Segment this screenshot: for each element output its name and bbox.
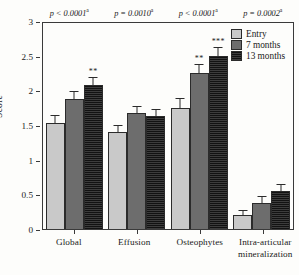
bar-group	[106, 23, 169, 229]
error-bar-cap	[89, 77, 98, 78]
significance-marker: **	[195, 56, 204, 62]
x-axis-ticks	[42, 230, 294, 235]
bar-7-months-osteophytes[interactable]	[190, 73, 209, 229]
bar-slot: **	[190, 23, 209, 229]
error-bar-cap	[132, 106, 141, 107]
bar-entry-effusion[interactable]	[108, 132, 127, 229]
bar-slot	[108, 23, 127, 229]
error-bar	[117, 126, 118, 132]
error-bar	[280, 185, 281, 191]
x-axis-label-osteophytes: Osteophytes	[167, 237, 233, 273]
error-bar	[242, 211, 243, 215]
significance-marker: ***	[212, 39, 225, 45]
legend-item-7-months: 7 months	[231, 40, 285, 50]
legend-label-7-months: 7 months	[246, 40, 280, 50]
y-axis-tick-1p5: 1.5	[22, 122, 33, 131]
p-value-osteophytes: p < 0.0001a	[166, 4, 231, 18]
legend-swatch-7-months-icon	[231, 40, 242, 50]
bar-7-months-intra-articular[interactable]	[252, 203, 271, 229]
error-bar-cap	[238, 210, 247, 211]
error-bar-cap	[214, 47, 223, 48]
error-bar	[55, 116, 56, 123]
legend-swatch-entry-icon	[231, 29, 242, 39]
x-axis-tickmark	[137, 230, 138, 234]
bar-13-months-intra-articular[interactable]	[271, 191, 290, 229]
x-axis-label-effusion: Effusion	[102, 237, 168, 273]
error-bar	[74, 92, 75, 99]
legend-item-entry: Entry	[231, 29, 285, 39]
bar-13-months-global[interactable]	[84, 85, 103, 229]
y-axis-tick-2p5: 2.5	[22, 52, 33, 61]
bar-slot: ***	[209, 23, 228, 229]
p-value-effusion: p = 0.0010a	[102, 4, 167, 18]
bar-entry-global[interactable]	[46, 123, 65, 229]
bar-slot	[46, 23, 65, 229]
p-value-intraarticular-text: p = 0.0002	[243, 9, 280, 18]
bar-13-months-effusion[interactable]	[146, 116, 165, 229]
error-bar-cap	[276, 184, 285, 185]
bar-chart: p < 0.0001a p = 0.0010a p < 0.0001a p = …	[0, 0, 298, 275]
p-value-osteophytes-text: p < 0.0001	[179, 9, 216, 18]
error-bar	[155, 110, 156, 116]
error-bar	[93, 78, 94, 86]
p-value-intraarticular-superscript: a	[280, 7, 282, 13]
bar-slot	[146, 23, 165, 229]
chart-legend: Entry 7 months 13 months	[229, 28, 287, 62]
legend-swatch-13-months-icon	[231, 51, 242, 61]
y-axis-tickmark	[36, 161, 40, 162]
bar-entry-osteophytes[interactable]	[171, 108, 190, 229]
bar-7-months-effusion[interactable]	[127, 113, 146, 229]
error-bar	[261, 197, 262, 203]
y-axis-tick-labels: 00.511.522.53	[0, 22, 40, 230]
bar-group: *****	[168, 23, 231, 229]
bar-slot	[127, 23, 146, 229]
bar-7-months-global[interactable]	[65, 99, 84, 229]
x-axis-label-global: Global	[36, 237, 102, 273]
error-bar-cap	[257, 196, 266, 197]
bar-group: **	[43, 23, 106, 229]
p-value-effusion-superscript: a	[151, 7, 153, 13]
y-axis-tickmark	[36, 230, 40, 231]
legend-item-13-months: 13 months	[231, 51, 285, 61]
bar-slot	[65, 23, 84, 229]
p-value-osteophytes-superscript: a	[215, 7, 217, 13]
plot-area: ******* Entry 7 months 13 months	[42, 22, 294, 230]
error-bar	[199, 65, 200, 73]
p-value-global-text: p < 0.0001	[50, 9, 87, 18]
error-bar-cap	[176, 98, 185, 99]
x-axis-labels: Global Effusion Osteophytes Intra-articu…	[36, 237, 298, 273]
p-value-intraarticular: p = 0.0002a	[231, 4, 296, 18]
significance-marker: **	[89, 69, 98, 75]
y-axis-tick-0p5: 0.5	[22, 191, 33, 200]
error-bar	[218, 48, 219, 56]
bar-slot	[171, 23, 190, 229]
legend-label-13-months: 13 months	[246, 51, 285, 61]
error-bar-cap	[51, 115, 60, 116]
bar-slot: **	[84, 23, 103, 229]
x-axis-tickmark	[74, 230, 75, 234]
p-value-global: p < 0.0001a	[37, 4, 102, 18]
y-axis-tick-0: 0	[28, 226, 33, 235]
y-axis-tickmark	[36, 195, 40, 196]
p-value-global-superscript: a	[86, 7, 88, 13]
x-axis-tickmark	[200, 230, 201, 234]
y-axis-tick-3: 3	[28, 18, 33, 27]
error-bar-cap	[151, 109, 160, 110]
x-axis-tickmark	[263, 230, 264, 234]
error-bar-cap	[195, 64, 204, 65]
legend-label-entry: Entry	[246, 29, 267, 39]
p-value-effusion-text: p = 0.0010	[114, 9, 151, 18]
p-value-row: p < 0.0001a p = 0.0010a p < 0.0001a p = …	[37, 4, 295, 18]
error-bar-cap	[70, 91, 79, 92]
bar-entry-intra-articular[interactable]	[233, 215, 252, 229]
y-axis-tickmark	[36, 126, 40, 127]
y-axis-tickmark	[36, 91, 40, 92]
bar-13-months-osteophytes[interactable]	[209, 56, 228, 229]
y-axis-tick-1: 1	[28, 156, 33, 165]
error-bar-cap	[113, 125, 122, 126]
y-axis-tickmark	[36, 57, 40, 58]
x-axis-label-intraarticular: Intra-articular mineralization	[233, 237, 299, 273]
error-bar	[136, 107, 137, 113]
error-bar	[180, 99, 181, 107]
y-axis-tickmark	[36, 22, 40, 23]
